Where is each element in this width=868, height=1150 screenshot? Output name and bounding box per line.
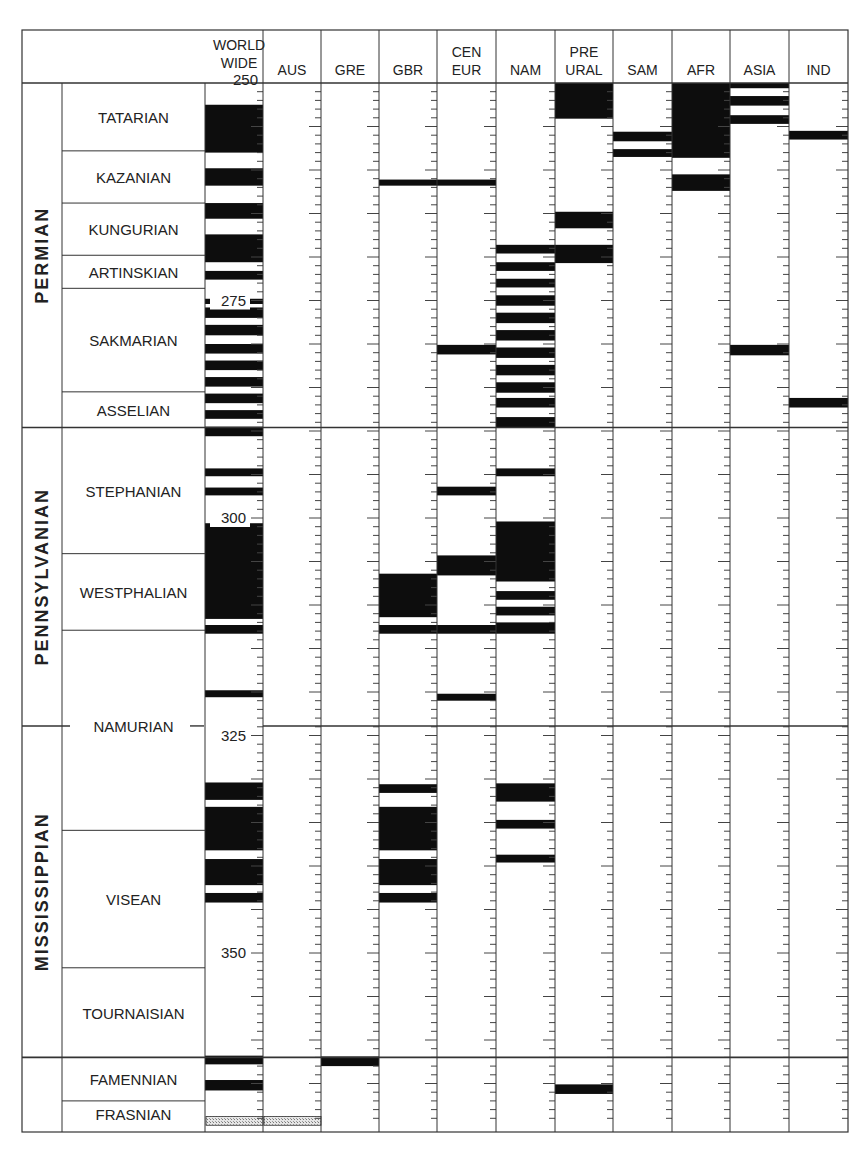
- polarity-bar-sam: [613, 132, 672, 142]
- polarity-bar-ceur: [437, 694, 496, 701]
- polarity-bar-nam: [496, 347, 555, 357]
- polarity-bar-ww: [205, 344, 263, 354]
- polarity-bar-nam: [496, 521, 555, 581]
- polarity-bar-ind: [789, 131, 848, 140]
- polarity-bar-gbr: [379, 784, 437, 793]
- polarity-bar-ww: [205, 105, 263, 153]
- polarity-bar-nam: [496, 262, 555, 271]
- period-label: PENNSYLVANIAN: [32, 488, 52, 665]
- polarity-bar-asia: [730, 345, 789, 355]
- polarity-bar-ww: [205, 271, 263, 280]
- polarity-bar-ceur: [437, 625, 496, 634]
- polarity-bar-pural: [555, 245, 613, 263]
- polarity-bar-ceur: [437, 487, 496, 496]
- stage-label: ASSELIAN: [97, 402, 170, 419]
- polarity-bar-gbr: [379, 180, 437, 186]
- polarity-bar-nam: [496, 591, 555, 600]
- polarity-bar-nam: [496, 398, 555, 408]
- column-header-aus: AUS: [278, 62, 307, 78]
- polarity-bar-sam: [613, 149, 672, 157]
- polarity-bar-gbr: [379, 893, 437, 903]
- column-header-ww: WIDE: [221, 55, 258, 71]
- polarity-bar-ceur: [437, 555, 496, 575]
- stage-label: SAKMARIAN: [89, 332, 177, 349]
- column-header-pural: PRE: [570, 44, 599, 60]
- stage-label: VISEAN: [106, 891, 161, 908]
- polarity-bar-ww: [205, 203, 263, 219]
- stage-label: KUNGURIAN: [88, 221, 178, 238]
- polarity-bar-pural: [555, 1084, 613, 1094]
- polarity-bar-nam: [496, 313, 555, 323]
- period-label: PERMIAN: [32, 207, 52, 304]
- uncertain-bar: [264, 1117, 321, 1126]
- stage-label: KAZANIAN: [96, 169, 171, 186]
- polarity-bar-nam: [496, 245, 555, 254]
- column-header-ww: WORLD: [213, 37, 265, 53]
- polarity-bar-ww: [205, 234, 263, 262]
- polarity-bar-ind: [789, 398, 848, 408]
- polarity-bar-asia: [730, 96, 789, 106]
- polarity-bar-ww: [205, 377, 263, 387]
- polarity-bar-nam: [496, 783, 555, 801]
- polarity-bar-nam: [496, 607, 555, 616]
- polarity-bar-ceur: [437, 345, 496, 355]
- polarity-bar-pural: [555, 212, 613, 229]
- age-label: 250: [233, 71, 258, 88]
- polarity-bar-ww: [205, 807, 263, 851]
- polarity-bar-nam: [496, 622, 555, 633]
- stage-label: ARTINSKIAN: [89, 264, 179, 281]
- polarity-bar-ww: [205, 690, 263, 697]
- polarity-bar-ww: [205, 361, 263, 371]
- column-header-gbr: GBR: [393, 62, 423, 78]
- polarity-bar-gbr: [379, 625, 437, 634]
- period-label: MISSISSIPPIAN: [32, 812, 52, 971]
- column-header-gre: GRE: [335, 62, 365, 78]
- polarity-bar-ww: [205, 1080, 263, 1090]
- polarity-bar-afr: [672, 174, 730, 191]
- polarity-bar-nam: [496, 279, 555, 288]
- age-label: 300: [221, 509, 246, 526]
- polarity-bar-pural: [555, 83, 613, 119]
- polarity-bar-gbr: [379, 807, 437, 851]
- polarity-bar-ceur: [437, 180, 496, 186]
- column-header-ceur: EUR: [452, 62, 482, 78]
- column-header-afr: AFR: [687, 62, 715, 78]
- column-header-nam: NAM: [510, 62, 541, 78]
- polarity-bar-ww: [205, 168, 263, 185]
- polarity-bar-nam: [496, 855, 555, 863]
- polarity-bar-afr: [672, 83, 730, 158]
- column-header-pural: URAL: [565, 62, 603, 78]
- polarity-bar-ww: [205, 893, 263, 903]
- age-label: 325: [221, 727, 246, 744]
- polarity-bar-ww: [205, 325, 263, 335]
- polarity-bar-gbr: [379, 859, 437, 885]
- column-header-asia: ASIA: [744, 62, 777, 78]
- polarity-bar-ww: [205, 859, 263, 885]
- uncertain-bar: [206, 1117, 263, 1126]
- stage-label: FRASNIAN: [96, 1106, 172, 1123]
- polarity-bar-nam: [496, 468, 555, 476]
- polarity-bar-nam: [496, 365, 555, 375]
- polarity-bar-ww: [205, 782, 263, 799]
- polarity-bar-ww: [205, 394, 263, 404]
- polarity-bar-ww: [205, 468, 263, 476]
- polarity-bar-nam: [496, 820, 555, 829]
- polarity-bar-gbr: [379, 574, 437, 618]
- polarity-bar-nam: [496, 330, 555, 340]
- polarity-bar-ww: [205, 488, 263, 496]
- stage-label: TATARIAN: [98, 109, 169, 126]
- stage-label: STEPHANIAN: [86, 483, 182, 500]
- stage-label: FAMENNIAN: [90, 1071, 178, 1088]
- polarity-bar-ww: [205, 410, 263, 419]
- stage-label: WESTPHALIAN: [80, 584, 188, 601]
- stage-label: TOURNAISIAN: [82, 1005, 184, 1022]
- polarity-bar-ww: [205, 625, 263, 634]
- age-label: 275: [221, 292, 246, 309]
- polarity-bars: [205, 81, 848, 1125]
- column-header-ceur: CEN: [452, 44, 482, 60]
- age-label: 350: [221, 944, 246, 961]
- column-header-sam: SAM: [627, 62, 657, 78]
- polarity-chart: WORLDWIDEAUSGREGBRCENEURNAMPREURALSAMAFR…: [0, 0, 868, 1150]
- stage-label: NAMURIAN: [93, 718, 173, 735]
- polarity-bar-asia: [730, 115, 789, 124]
